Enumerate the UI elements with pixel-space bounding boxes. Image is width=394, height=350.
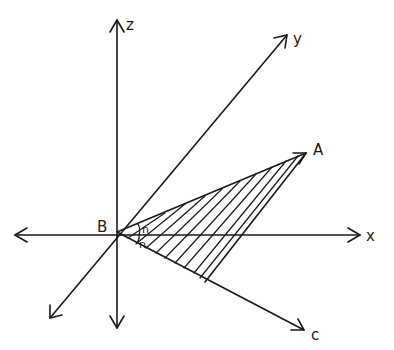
z-axis [110, 20, 124, 328]
angle-lower-label: n [139, 238, 146, 251]
origin-label: B [97, 218, 107, 236]
angle-upper-label: n [142, 223, 149, 236]
z-axis-label: z [126, 16, 134, 34]
axes-diagram: B z y x A c n n [0, 0, 394, 350]
ray-BA [117, 153, 306, 232]
y-axis-label: y [293, 30, 302, 48]
angle-arc-upper [138, 224, 140, 235]
point-a-label: A [313, 141, 324, 159]
point-c-label: c [311, 326, 319, 344]
hatched-triangle [128, 153, 306, 282]
x-axis-label: x [366, 227, 375, 245]
